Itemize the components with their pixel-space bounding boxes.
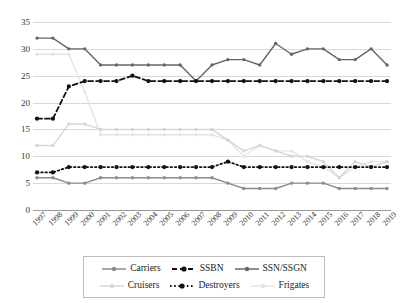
data-point: [115, 63, 118, 66]
data-point: [194, 128, 197, 131]
data-point: [306, 155, 309, 158]
legend-swatch-carriers: [101, 264, 127, 274]
legend-item-ssn-ssgn[interactable]: SSN/SSGN: [234, 264, 307, 274]
data-point: [258, 144, 261, 147]
data-point: [337, 79, 341, 83]
data-point: [242, 149, 245, 152]
data-point: [306, 181, 309, 184]
data-point: [322, 47, 325, 50]
data-point: [369, 160, 372, 163]
data-point: [163, 176, 166, 179]
series-cruisers: [35, 122, 388, 179]
grid-line-0: [33, 210, 391, 211]
data-point: [242, 79, 246, 83]
y-tick-label-0: 0: [6, 205, 30, 215]
data-point: [162, 165, 166, 169]
y-tick-label-15: 15: [6, 124, 30, 134]
data-point: [131, 176, 134, 179]
data-point: [35, 53, 38, 56]
data-point: [290, 155, 293, 158]
data-point: [385, 160, 388, 163]
legend-label-destroyers: Destroyers: [198, 281, 239, 291]
x-tick-label-1997: 1997: [31, 210, 49, 228]
data-point: [35, 36, 38, 39]
legend-item-carriers[interactable]: Carriers: [101, 264, 161, 274]
data-point: [305, 79, 309, 83]
data-point: [178, 176, 181, 179]
data-point: [67, 181, 70, 184]
data-point: [274, 187, 277, 190]
data-point: [226, 181, 229, 184]
data-point: [242, 58, 245, 61]
data-point: [178, 165, 182, 169]
x-tick-label-2010: 2010: [237, 210, 255, 228]
x-tick-label-2000: 2000: [78, 210, 96, 228]
data-point: [147, 63, 150, 66]
data-point: [274, 165, 278, 169]
data-point: [369, 47, 372, 50]
legend-item-frigates[interactable]: Frigates: [250, 281, 310, 291]
data-point: [114, 79, 118, 83]
data-point: [131, 133, 134, 136]
x-tick-label-2018: 2018: [365, 210, 383, 228]
x-tick-label-2001: 2001: [94, 210, 112, 228]
chart-legend: CarriersSSBNSSN/SSGN CruisersDestroyersF…: [83, 256, 325, 298]
data-point: [51, 144, 54, 147]
data-point: [67, 122, 70, 125]
data-point: [321, 165, 325, 169]
legend-row-2: CruisersDestroyersFrigates: [90, 277, 318, 294]
legend-label-ssn-ssgn: SSN/SSGN: [263, 264, 307, 274]
data-point: [322, 181, 325, 184]
data-point: [146, 165, 150, 169]
data-point: [274, 79, 278, 83]
plot-area: [33, 22, 391, 210]
data-point: [210, 63, 213, 66]
data-point: [210, 128, 213, 131]
series-frigates: [35, 53, 388, 180]
data-point: [194, 165, 198, 169]
x-tick-label-2013: 2013: [285, 210, 303, 228]
data-point: [353, 165, 357, 169]
data-point: [290, 53, 293, 56]
data-point: [306, 160, 309, 163]
data-point: [338, 187, 341, 190]
data-point: [147, 133, 150, 136]
data-point: [130, 165, 134, 169]
legend-row-1: CarriersSSBNSSN/SSGN: [90, 260, 318, 277]
data-point: [146, 79, 150, 83]
data-point: [290, 149, 293, 152]
data-point: [67, 47, 70, 50]
y-tick-label-30: 30: [6, 44, 30, 54]
data-point: [83, 165, 87, 169]
data-point: [337, 165, 341, 169]
legend-item-ssbn[interactable]: SSBN: [171, 264, 224, 274]
legend-item-cruisers[interactable]: Cruisers: [99, 281, 160, 291]
chart-container: 05101520253035 1997199819992000200120022…: [0, 0, 402, 303]
legend-swatch-destroyers: [169, 281, 195, 291]
data-point: [51, 36, 54, 39]
data-point: [289, 165, 293, 169]
x-tick-label-2004: 2004: [142, 210, 160, 228]
data-point: [306, 47, 309, 50]
data-point: [258, 187, 261, 190]
data-point: [99, 133, 102, 136]
series-ssbn: [35, 74, 389, 121]
legend-item-destroyers[interactable]: Destroyers: [169, 281, 239, 291]
data-point: [210, 79, 214, 83]
data-point: [385, 63, 388, 66]
series-line: [37, 124, 387, 178]
data-point: [178, 63, 181, 66]
data-point: [51, 176, 54, 179]
data-point: [51, 170, 55, 174]
data-point: [115, 176, 118, 179]
data-point: [35, 144, 38, 147]
data-point: [242, 155, 245, 158]
data-point: [289, 79, 293, 83]
legend-label-ssbn: SSBN: [200, 264, 224, 274]
y-tick-label-10: 10: [6, 151, 30, 161]
data-point: [338, 58, 341, 61]
y-tick-label-5: 5: [6, 178, 30, 188]
data-point: [290, 181, 293, 184]
x-tick-label-1999: 1999: [62, 210, 80, 228]
data-point: [35, 117, 39, 121]
